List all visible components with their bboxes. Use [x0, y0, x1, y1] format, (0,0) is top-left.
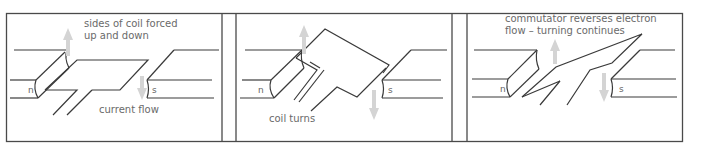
south-pole-label: s: [152, 85, 157, 95]
panel-3: n s commutator reverses electron flow – …: [472, 13, 677, 105]
up-arrow-icon: [550, 39, 560, 64]
north-pole-label: n: [258, 85, 264, 95]
current-flow-label: current flow: [99, 104, 159, 115]
down-arrow-icon: [599, 73, 609, 102]
north-magnet: [240, 50, 304, 98]
north-pole-label: n: [500, 84, 506, 94]
motor-diagram: n s sides of coil forced up and down cur…: [0, 0, 705, 148]
panel-1: n s sides of coil forced up and down cur…: [10, 18, 219, 115]
commutator-label: commutator reverses electron: [505, 13, 657, 24]
force-label: sides of coil forced: [84, 18, 178, 29]
south-magnet: [147, 50, 219, 98]
down-arrow-icon: [137, 76, 147, 100]
north-magnet: [10, 50, 69, 98]
commutator-label-line2: flow – turning continues: [505, 25, 625, 36]
panel-2: n s coil turns: [240, 25, 447, 124]
force-label-line2: up and down: [84, 30, 149, 41]
south-pole-label: s: [619, 84, 624, 94]
south-pole-label: s: [388, 85, 393, 95]
coil: [522, 34, 642, 105]
down-arrow-icon: [369, 90, 379, 120]
north-pole-label: n: [28, 85, 34, 95]
coil-turns-label: coil turns: [269, 113, 315, 124]
